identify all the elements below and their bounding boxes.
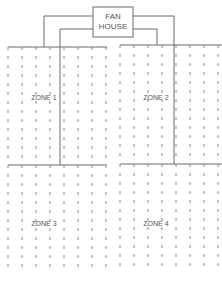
zone-2-label: ZONE 2 [143, 94, 168, 101]
fan-house-label-line1: FAN [105, 12, 121, 21]
laterals [8, 45, 218, 272]
fan-house-label-line2: HOUSE [99, 22, 127, 31]
feed-pipes [44, 16, 174, 165]
fan-house: FAN HOUSE [93, 7, 133, 37]
irrigation-zone-diagram: FAN HOUSE [0, 0, 222, 291]
zone-4-label: ZONE 4 [143, 220, 168, 227]
zone-1-label: ZONE 1 [31, 94, 56, 101]
zone-3-label: ZONE 3 [31, 220, 56, 227]
